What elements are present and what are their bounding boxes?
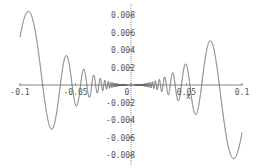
y-tick-label: -0.004 (106, 116, 135, 125)
y-tick-label: -0.006 (106, 134, 135, 143)
x-tick-label: -0.05 (63, 88, 87, 97)
y-tick-label: 0.002 (111, 64, 135, 73)
y-tick-label: 0.006 (111, 29, 135, 38)
y-tick-label: 0.004 (111, 46, 135, 55)
x-tick-label: 0.1 (235, 88, 250, 97)
y-tick-label: -0.008 (106, 151, 135, 160)
y-tick-label: -0.002 (106, 99, 135, 108)
x-axis-label: x (186, 92, 191, 101)
x-tick-label: -0.1 (10, 88, 29, 97)
y-tick-label: 0.008 (111, 11, 135, 20)
function-plot: -0.1-0.0500.050.1 0.0080.0060.0040.002-0… (0, 0, 263, 168)
x-tick-label: 0 (125, 88, 130, 97)
